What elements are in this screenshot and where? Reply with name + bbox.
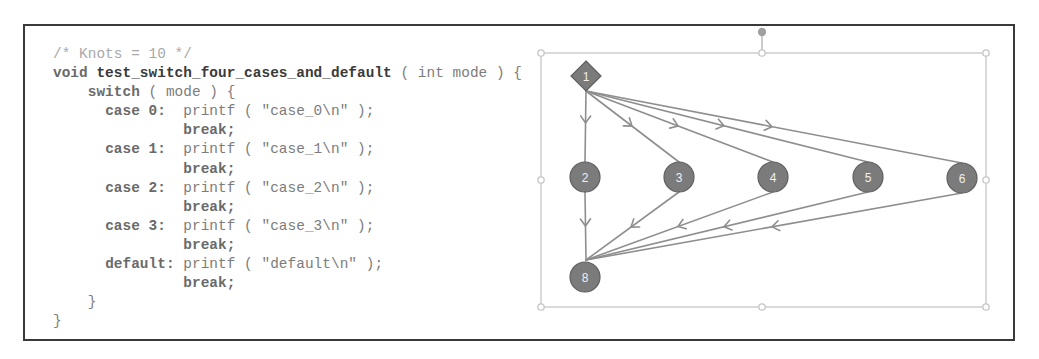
node-6[interactable]: 6 [947, 163, 977, 193]
edge-6-8 [586, 193, 962, 260]
node-label: 5 [865, 171, 872, 185]
resize-handle-se [983, 304, 989, 310]
edge-1-4 [586, 91, 773, 162]
resize-handle-nw [538, 50, 544, 56]
resize-handle-s [759, 304, 765, 310]
resize-handle-w [538, 177, 544, 183]
resize-handle-sw [538, 304, 544, 310]
resize-handle-n [759, 50, 765, 56]
node-1[interactable]: 1 [571, 61, 601, 91]
node-label: 2 [582, 171, 589, 185]
edge-5-8 [586, 192, 868, 260]
node-5[interactable]: 5 [853, 162, 883, 192]
edge-4-8 [586, 192, 773, 260]
node-4[interactable]: 4 [758, 162, 788, 192]
node-label: 8 [582, 271, 589, 285]
edge-1-2 [585, 91, 586, 162]
node-8[interactable]: 8 [570, 262, 600, 292]
node-label: 1 [583, 70, 590, 84]
node-label: 4 [770, 171, 777, 185]
node-3[interactable]: 3 [664, 162, 694, 192]
edge-3-8 [586, 192, 679, 260]
edge-1-6 [586, 91, 962, 163]
node-2[interactable]: 2 [570, 162, 600, 192]
resize-handle-ne [983, 50, 989, 56]
nodes: 1234568 [570, 61, 977, 292]
rotate-handle [759, 29, 766, 36]
control-flow-graph[interactable]: 1234568 [0, 0, 1039, 359]
node-label: 6 [959, 172, 966, 186]
resize-handle-e [983, 177, 989, 183]
node-label: 3 [676, 171, 683, 185]
